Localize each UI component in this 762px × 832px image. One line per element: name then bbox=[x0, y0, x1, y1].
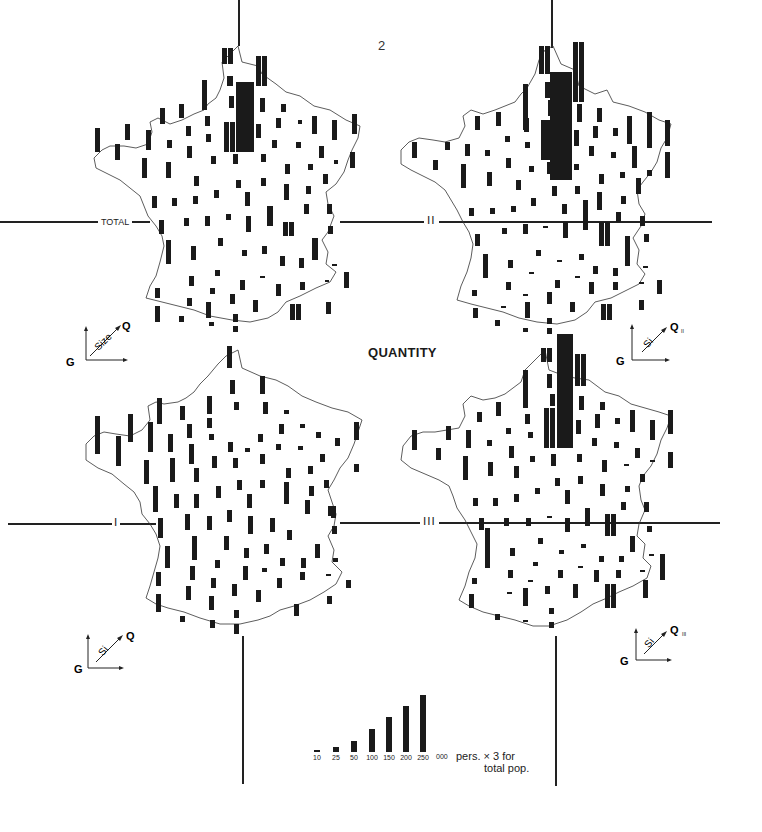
axis-line-bottom-right bbox=[555, 636, 557, 786]
map-i bbox=[80, 340, 380, 640]
si-label: Si bbox=[642, 636, 656, 650]
legend-note: pers. × 3 for total pop. bbox=[456, 750, 529, 774]
bar-symbols bbox=[412, 334, 673, 628]
legend-tick: 50 bbox=[344, 754, 364, 761]
legend-bar-50 bbox=[351, 741, 357, 752]
france-outline bbox=[401, 46, 671, 324]
legend-note-line2: total pop. bbox=[456, 762, 529, 774]
g-label: G bbox=[66, 356, 75, 368]
axis-glyph-i: Si Q G bbox=[66, 620, 156, 676]
q-label: Q bbox=[670, 321, 679, 333]
map-total bbox=[90, 40, 380, 340]
legend-tick: 25 bbox=[326, 754, 346, 761]
g-label: G bbox=[616, 355, 625, 366]
axis-glyph-ii: Si Q II G bbox=[608, 310, 698, 366]
axis-glyph-total: Size Q G bbox=[56, 316, 136, 372]
size-label: Size bbox=[92, 331, 114, 353]
size-legend: 10 25 50 100 150 200 250 000 pers. × 3 f… bbox=[306, 676, 546, 786]
legend-unit: 000 bbox=[436, 753, 448, 760]
bar-symbols bbox=[412, 42, 670, 334]
bar-symbols bbox=[95, 48, 357, 332]
g-label: G bbox=[74, 663, 83, 675]
france-outline bbox=[94, 46, 360, 322]
legend-bar-25 bbox=[333, 747, 339, 752]
legend-note-line1: pers. × 3 for bbox=[456, 750, 529, 762]
legend-tick: 10 bbox=[307, 754, 327, 761]
q-label: Q bbox=[126, 630, 135, 642]
map-iii bbox=[395, 330, 695, 640]
legend-bar-100 bbox=[369, 729, 375, 752]
legend-bar-10 bbox=[314, 750, 320, 752]
bar-symbols bbox=[95, 346, 359, 634]
legend-tick: 250 bbox=[413, 754, 433, 761]
map-ii bbox=[395, 30, 695, 340]
axis-line-bottom-left bbox=[242, 636, 244, 784]
legend-bar-150 bbox=[386, 717, 392, 752]
g-label: G bbox=[620, 655, 629, 667]
si-label: Si bbox=[96, 644, 110, 658]
q-subscript: II bbox=[681, 328, 684, 334]
axis-glyph-iii: Si Q III G bbox=[610, 614, 700, 670]
q-subscript: III bbox=[682, 631, 686, 637]
q-label: Q bbox=[670, 624, 679, 636]
si-label: Si bbox=[641, 336, 655, 350]
q-label: Q bbox=[122, 320, 131, 332]
legend-bar-200 bbox=[403, 706, 409, 752]
legend-bar-250 bbox=[420, 695, 426, 752]
france-outline bbox=[86, 350, 362, 624]
